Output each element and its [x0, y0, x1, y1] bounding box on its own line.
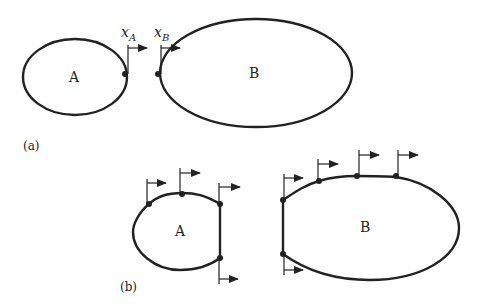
contact-point-b1	[280, 197, 286, 203]
panel-a-label: (a)	[23, 139, 40, 153]
body-a-label: A	[68, 69, 80, 85]
body-b-label-b: B	[360, 219, 370, 235]
body-a-label-b: A	[174, 223, 186, 239]
body-b-truncated-shape	[283, 176, 459, 280]
contact-point-a	[122, 71, 128, 77]
panel-b: A (b) B	[120, 150, 459, 294]
panel-a: A xA B xB (a)	[23, 19, 352, 153]
coordinate-flag-xa	[128, 45, 147, 74]
body-b-label: B	[249, 65, 259, 81]
diagram-canvas: A xA B xB (a) A	[0, 0, 484, 305]
coord-label-xb: xB	[154, 24, 169, 43]
coord-label-xa: xA	[121, 24, 136, 43]
contact-point-a3	[217, 201, 223, 207]
contact-point-b2	[316, 178, 322, 184]
contact-point-b5	[280, 251, 286, 257]
contact-point-a4	[217, 255, 223, 261]
coordinate-flags-b	[284, 150, 418, 275]
panel-b-label: (b)	[120, 280, 137, 294]
contact-point-b	[155, 71, 161, 77]
